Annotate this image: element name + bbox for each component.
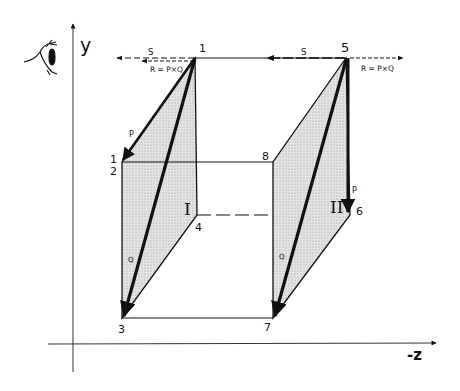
panel-label-II: II xyxy=(330,197,343,217)
cross-product-diagram: y -z S R = P×Q P Q I xyxy=(0,0,460,391)
y-axis-label: y xyxy=(80,34,91,56)
z-axis xyxy=(48,343,436,344)
label-Q-right: Q xyxy=(279,253,285,261)
label-S-right: S xyxy=(301,47,306,57)
label-Q-left: Q xyxy=(128,256,134,264)
point-1: 1 xyxy=(199,42,206,55)
label-P-right: P xyxy=(352,186,357,195)
point-3: 3 xyxy=(118,323,125,336)
label-R-left: R = P×Q xyxy=(150,65,183,74)
point-7: 7 xyxy=(264,321,271,334)
point-6: 6 xyxy=(356,205,363,218)
eye-icon xyxy=(24,40,57,75)
point-2: 2 xyxy=(110,165,117,178)
label-S-left: S xyxy=(148,47,153,57)
point-4: 4 xyxy=(195,221,202,234)
panel-II: S R = P×Q P Q II xyxy=(267,47,403,318)
point-8: 8 xyxy=(262,150,269,163)
point-5: 5 xyxy=(341,40,349,55)
panel-label-I: I xyxy=(184,199,191,219)
label-P-left: P xyxy=(129,130,134,139)
z-axis-label: -z xyxy=(407,346,422,364)
label-R-right: R = P×Q xyxy=(361,64,394,73)
axes: y -z xyxy=(48,24,436,372)
